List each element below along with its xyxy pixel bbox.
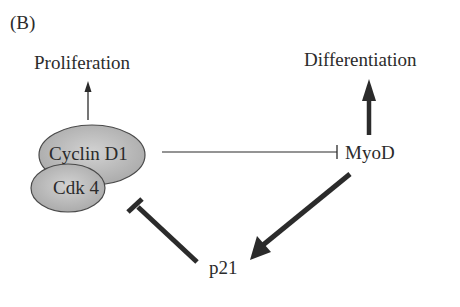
- p21-label: p21: [209, 258, 238, 277]
- panel-label: (B): [10, 13, 35, 32]
- differentiation-label: Differentiation: [304, 50, 417, 69]
- myod-label: MyoD: [345, 143, 395, 162]
- cyclin-d1-label: Cyclin D1: [49, 144, 128, 163]
- inhibition-p21-to-cdk4: [128, 199, 197, 262]
- inhibition-cyclin-to-myod: [162, 145, 337, 159]
- proliferation-label: Proliferation: [34, 53, 130, 72]
- arrow-to-differentiation: [362, 79, 376, 135]
- arrow-to-proliferation: [85, 81, 92, 120]
- cdk4-label: Cdk 4: [53, 178, 99, 197]
- arrow-myod-to-p21: [250, 174, 350, 260]
